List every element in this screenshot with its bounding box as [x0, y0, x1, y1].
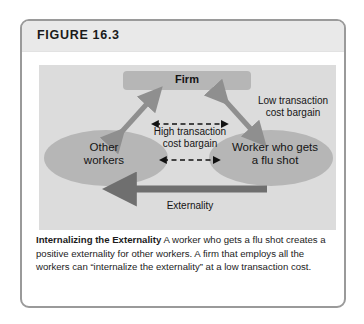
- worker-flu-node-shape: [209, 130, 333, 186]
- diagram-panel: Firm Other workers Worker who gets a flu…: [39, 65, 336, 230]
- diagram-graphic: [39, 65, 336, 230]
- figure-card: FIGURE 16.3: [20, 19, 346, 308]
- arrow-firm-worker-flu: [221, 96, 258, 137]
- arrow-firm-other-workers: [117, 96, 154, 137]
- caption-title: Internalizing the Externality: [36, 234, 161, 245]
- figure-caption: Internalizing the Externality A worker w…: [36, 233, 331, 274]
- other-workers-node-shape: [44, 130, 168, 186]
- figure-number: FIGURE 16.3: [37, 28, 120, 42]
- firm-node-shape: [123, 71, 251, 90]
